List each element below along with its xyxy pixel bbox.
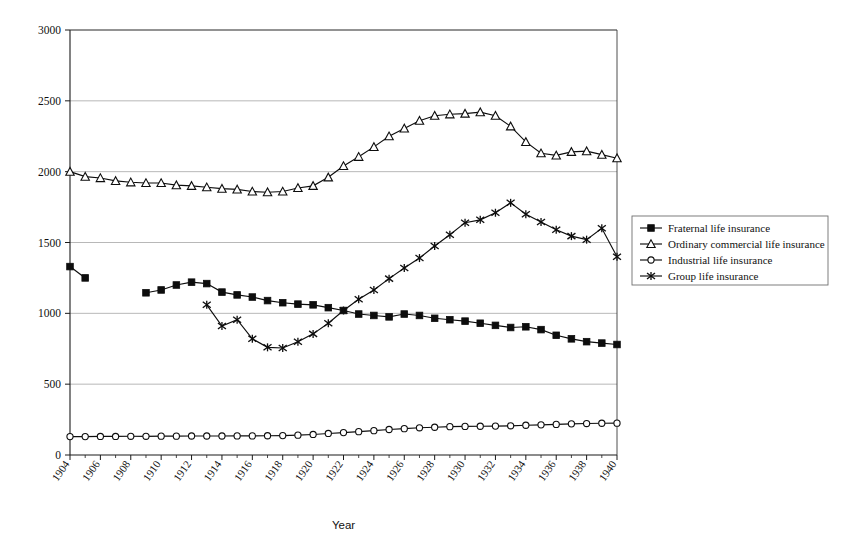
- x-tick-label-1910: 1910: [140, 458, 163, 483]
- data-point-marker: [401, 311, 408, 318]
- y-tick-label-1500: 1500: [38, 237, 61, 249]
- data-point-marker: [355, 295, 363, 303]
- data-point-marker: [233, 316, 241, 324]
- data-point-marker: [567, 232, 575, 240]
- data-point-marker: [310, 431, 316, 437]
- x-tick-label-1908: 1908: [110, 458, 133, 483]
- data-point-marker: [613, 253, 621, 261]
- data-point-marker: [81, 172, 89, 180]
- data-point-marker: [371, 428, 377, 434]
- x-tick-label-1912: 1912: [171, 458, 193, 483]
- data-point-marker: [204, 433, 210, 439]
- data-point-marker: [598, 224, 606, 232]
- data-point-marker: [584, 420, 590, 426]
- data-point-marker: [386, 426, 392, 432]
- data-point-marker: [324, 173, 332, 181]
- data-point-marker: [309, 330, 317, 338]
- data-point-marker: [203, 280, 210, 287]
- x-tick-label-1932: 1932: [475, 458, 497, 483]
- data-point-marker: [249, 294, 256, 301]
- data-point-marker: [82, 275, 89, 282]
- legend-item-label: Group life insurance: [668, 270, 759, 282]
- data-point-marker: [568, 336, 575, 343]
- data-point-marker: [614, 341, 621, 348]
- data-point-marker: [385, 275, 393, 283]
- data-point-marker: [158, 433, 164, 439]
- data-point-marker: [294, 338, 302, 346]
- data-point-marker: [386, 314, 393, 321]
- chart-legend[interactable]: Fraternal life insuranceOrdinary commerc…: [632, 216, 828, 285]
- data-point-marker: [415, 254, 423, 262]
- data-point-marker: [538, 422, 544, 428]
- data-point-marker: [340, 430, 346, 436]
- data-point-marker: [583, 236, 591, 244]
- series-path: [70, 112, 617, 192]
- x-tick-label-1924: 1924: [353, 458, 376, 483]
- legend-item-label: Industrial life insurance: [668, 254, 773, 266]
- chart-canvas: 050010001500200025003000 190419061908191…: [0, 0, 860, 548]
- data-point-marker: [264, 433, 270, 439]
- data-point-marker: [432, 424, 438, 430]
- data-point-marker: [462, 423, 468, 429]
- data-point-marker: [370, 143, 378, 151]
- series-path: [207, 203, 617, 348]
- data-point-marker: [112, 433, 118, 439]
- data-point-marker: [355, 311, 362, 318]
- data-point-marker: [371, 312, 378, 319]
- data-point-marker: [173, 282, 180, 289]
- legend-item-ordinary-commercial-life-insurance[interactable]: Ordinary commercial life insurance: [640, 238, 825, 250]
- data-point-marker: [537, 218, 545, 226]
- data-point-marker: [415, 116, 423, 124]
- legend-item-label: Fraternal life insurance: [668, 222, 770, 234]
- x-tick-label-1926: 1926: [383, 458, 406, 483]
- x-tick-label-1928: 1928: [414, 458, 437, 483]
- data-point-marker: [249, 433, 255, 439]
- data-point-marker: [370, 286, 378, 294]
- data-point-marker: [416, 425, 422, 431]
- data-point-marker: [248, 335, 256, 343]
- data-point-marker: [82, 433, 88, 439]
- x-tick-label-1934: 1934: [505, 458, 528, 483]
- data-point-marker: [218, 322, 226, 330]
- data-point-marker: [400, 124, 408, 132]
- y-tick-label-500: 500: [44, 378, 62, 390]
- data-point-marker: [462, 318, 469, 325]
- y-tick-label-3000: 3000: [38, 24, 61, 36]
- data-point-marker: [219, 433, 225, 439]
- data-point-marker: [354, 153, 362, 161]
- legend-item-label: Ordinary commercial life insurance: [668, 238, 825, 250]
- data-point-marker: [264, 297, 271, 304]
- x-tick-label-1938: 1938: [566, 458, 589, 483]
- data-point-marker: [491, 209, 499, 217]
- data-point-marker: [492, 322, 499, 329]
- data-point-marker: [431, 242, 439, 250]
- data-point-marker: [553, 332, 560, 339]
- data-point-marker: [446, 231, 454, 239]
- x-tick-label-1930: 1930: [444, 458, 467, 483]
- x-tick-label-1904: 1904: [49, 458, 72, 483]
- data-point-marker: [158, 287, 165, 294]
- data-point-marker: [508, 423, 514, 429]
- data-point-marker: [583, 338, 590, 345]
- data-point-marker: [507, 324, 514, 331]
- data-point-marker: [67, 433, 73, 439]
- data-point-marker: [552, 226, 560, 234]
- data-point-marker: [188, 433, 194, 439]
- data-point-marker: [203, 301, 211, 309]
- data-point-marker: [599, 420, 605, 426]
- data-point-marker: [401, 426, 407, 432]
- x-tick-label-1916: 1916: [232, 458, 255, 483]
- data-point-marker: [143, 289, 150, 296]
- x-tick-label-1940: 1940: [596, 458, 619, 483]
- data-point-marker: [538, 326, 545, 333]
- data-point-marker: [324, 319, 332, 327]
- x-axis-ticks: 1904190619081910191219141916191819201922…: [49, 455, 619, 483]
- data-point-marker: [447, 316, 454, 323]
- series-fraternal-life-insurance: [67, 263, 621, 348]
- data-point-marker: [295, 432, 301, 438]
- data-point-marker: [128, 433, 134, 439]
- data-point-marker: [400, 264, 408, 272]
- data-point-marker: [523, 422, 529, 428]
- y-tick-label-1000: 1000: [38, 307, 61, 319]
- x-axis-title-group: Year: [332, 519, 355, 531]
